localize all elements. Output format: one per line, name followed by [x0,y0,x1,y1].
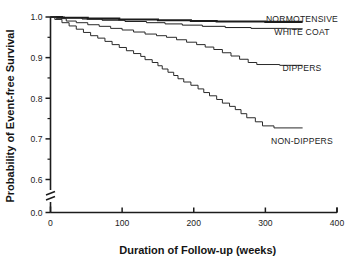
x-tick-label: 200 [187,218,202,228]
axis-titles: Duration of Follow-up (weeks)Probability… [4,30,277,257]
y-tick-label: 0.7 [31,134,43,144]
x-tick-label: 300 [258,218,273,228]
y-axis-ticks: 0.60.70.80.91.00.0 [31,12,51,218]
x-axis-title: Duration of Follow-up (weeks) [119,244,276,256]
x-axis-ticks: 0100200300400 [48,207,344,229]
series-label-normotensive: NORMOTENSIVE [266,14,338,24]
x-tick-label: 0 [48,218,53,228]
y-tick-label-zero: 0.0 [31,208,43,218]
series-label-non-dippers: NON-DIPPERS [271,136,333,146]
series-label-white-coat: WHITE COAT [274,27,330,37]
axis-lines [46,17,337,213]
x-tick-label: 100 [115,218,130,228]
series-labels: NORMOTENSIVEWHITE COATDIPPERSNON-DIPPERS [266,14,338,146]
chart-canvas: 0.60.70.80.91.00.0 0100200300400 NORMOTE… [0,0,351,268]
curve-non-dippers [51,17,303,128]
series-label-dippers: DIPPERS [282,63,321,73]
y-tick-label: 1.0 [31,12,43,22]
survival-curves [51,17,303,128]
y-tick-label: 0.6 [31,175,43,185]
y-tick-label: 0.8 [31,94,43,104]
y-axis-title: Probability of Event-free Survival [4,30,16,203]
y-tick-label: 0.9 [31,53,43,63]
x-tick-label: 400 [330,218,345,228]
survival-chart-figure: 0.60.70.80.91.00.0 0100200300400 NORMOTE… [0,0,351,268]
